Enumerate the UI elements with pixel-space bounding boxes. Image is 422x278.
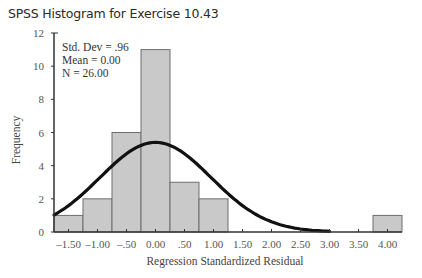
svg-text:2.00: 2.00: [262, 238, 282, 250]
svg-text:.50: .50: [178, 238, 192, 250]
histogram-bar: [141, 50, 170, 232]
svg-text:1.50: 1.50: [233, 238, 253, 250]
stat-n: N = 26.00: [62, 67, 109, 79]
stat-std-dev: Std. Dev = .96: [62, 41, 129, 53]
svg-text:8: 8: [39, 93, 45, 105]
svg-text:10: 10: [33, 60, 45, 72]
svg-text:1.00: 1.00: [204, 238, 224, 250]
svg-text:2.50: 2.50: [291, 238, 311, 250]
svg-text:2: 2: [39, 193, 45, 205]
y-axis-title: Frequency: [10, 115, 23, 164]
svg-text:12: 12: [33, 27, 44, 39]
svg-text:3.00: 3.00: [320, 238, 340, 250]
histogram-bar: [83, 199, 112, 232]
y-axis-ticks: 024681012: [33, 27, 54, 238]
histogram-bar: [170, 182, 199, 232]
svg-text:–1.00: –1.00: [84, 238, 110, 250]
stat-mean: Mean = 0.00: [62, 54, 121, 66]
svg-text:3.50: 3.50: [349, 238, 369, 250]
svg-text:–.50: –.50: [116, 238, 137, 250]
svg-text:6: 6: [39, 127, 45, 139]
histogram-bar: [199, 199, 228, 232]
svg-text:0.00: 0.00: [146, 238, 166, 250]
svg-text:–1.50: –1.50: [55, 238, 81, 250]
svg-text:4.00: 4.00: [378, 238, 398, 250]
svg-text:0: 0: [39, 226, 45, 238]
histogram-chart: 024681012 –1.50–1.00–.500.00.501.001.502…: [0, 0, 422, 278]
x-axis-title: Regression Standardized Residual: [146, 255, 303, 268]
svg-text:4: 4: [39, 160, 45, 172]
